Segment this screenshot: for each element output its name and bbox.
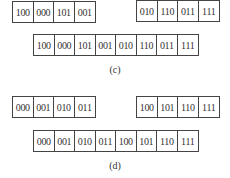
cell: 010 [54,97,75,117]
panel-c-merged-block: 100 000 101 001 010 110 011 111 [33,34,199,56]
cell: 111 [199,97,220,117]
cell: 100 [137,97,158,117]
cell: 001 [75,2,96,22]
cell: 101 [54,2,75,22]
cell: 101 [75,35,96,55]
cell: 011 [157,35,178,55]
cell: 001 [34,97,55,117]
cell: 110 [178,97,199,117]
cell: 111 [199,1,220,21]
cell: 011 [96,131,117,151]
panel-d-left-block: 000 001 010 011 [12,96,96,118]
cell: 010 [75,131,96,151]
cell: 110 [137,35,158,55]
cell: 101 [158,97,179,117]
cell: 101 [137,131,158,151]
panel-d-caption: (d) [0,160,230,171]
cell: 100 [116,131,137,151]
cell: 000 [13,97,34,117]
panel-c-caption: (c) [0,64,230,75]
cell: 010 [116,35,137,55]
cell: 000 [34,131,55,151]
cell: 001 [96,35,117,55]
panel-c-right-block: 010 110 011 111 [136,0,220,22]
panel-c-left-block: 100 000 101 001 [12,1,96,23]
panel-d-right-block: 100 101 110 111 [136,96,220,118]
cell: 111 [178,35,199,55]
cell: 100 [13,2,34,22]
panel-d-merged-block: 000 001 010 011 100 101 110 111 [33,130,199,152]
cell: 011 [178,1,199,21]
cell: 111 [178,131,199,151]
cell: 110 [158,1,179,21]
cell: 110 [157,131,178,151]
cell: 010 [137,1,158,21]
cell: 000 [34,2,55,22]
cell: 001 [55,131,76,151]
cell: 000 [55,35,76,55]
cell: 011 [75,97,96,117]
cell: 100 [34,35,55,55]
